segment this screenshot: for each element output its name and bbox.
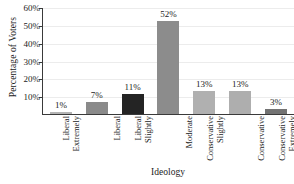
x-tick-label: ExtremelyConservative — [258, 116, 294, 166]
y-axis-tick-labels: 10%20%30%40%50%60% — [14, 0, 40, 115]
x-tick-label: SlightlyConservative — [186, 116, 222, 166]
plot-area: 1%7%11%52%13%13%3% — [42, 8, 294, 115]
x-tick-label: Conservative — [222, 116, 258, 166]
bar-slot: 13% — [222, 8, 258, 114]
bar-slot: 7% — [79, 8, 115, 114]
x-tick-label: ExtremelyLiberal — [42, 116, 78, 166]
bar[interactable] — [229, 91, 251, 114]
bar[interactable] — [122, 94, 144, 114]
y-tick-label: 60% — [14, 4, 40, 13]
bars-layer: 1%7%11%52%13%13%3% — [43, 8, 294, 114]
bar-value-label: 1% — [55, 101, 67, 110]
bar-slot: 1% — [43, 8, 79, 114]
bar[interactable] — [193, 91, 215, 114]
bar-value-label: 3% — [270, 98, 282, 107]
x-tick-label: Moderate — [150, 116, 186, 166]
bar-chart: Percentage of Voters 10%20%30%40%50%60% … — [0, 0, 294, 184]
bar[interactable] — [157, 21, 179, 114]
x-tick-label: SlightlyLiberal — [114, 116, 150, 166]
bar-slot: 13% — [186, 8, 222, 114]
x-axis-title: Ideology — [42, 167, 294, 177]
x-tick-label-line: Extremely — [288, 116, 294, 151]
bar-value-label: 13% — [232, 80, 249, 89]
y-tick-label: 20% — [14, 75, 40, 84]
x-tick-label: Liberal — [78, 116, 114, 166]
bar-slot: 3% — [258, 8, 294, 114]
bar-value-label: 52% — [160, 10, 177, 19]
x-axis-tick-labels: ExtremelyLiberalLiberalSlightlyLiberalMo… — [42, 116, 294, 166]
bar-slot: 11% — [115, 8, 151, 114]
bar-value-label: 11% — [125, 83, 141, 92]
bar[interactable] — [86, 102, 108, 114]
y-tick-label: 10% — [14, 93, 40, 102]
y-tick-label: 30% — [14, 57, 40, 66]
bar-value-label: 13% — [196, 80, 213, 89]
bar-value-label: 7% — [91, 91, 103, 100]
bar[interactable] — [265, 109, 287, 114]
y-tick-label: 50% — [14, 21, 40, 30]
bar[interactable] — [50, 112, 72, 114]
bar-slot: 52% — [151, 8, 187, 114]
y-tick-label: 40% — [14, 39, 40, 48]
